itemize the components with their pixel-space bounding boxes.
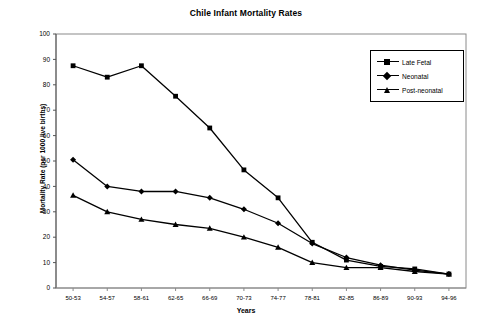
legend-item-label: Neonatal <box>399 73 428 80</box>
data-point-marker <box>70 192 76 197</box>
x-axis-tick-label: 94-96 <box>441 295 457 301</box>
y-axis-tick-label: 100 <box>39 30 50 37</box>
x-axis-tick-label: 70-73 <box>236 295 252 301</box>
x-axis-title: Years <box>0 307 492 314</box>
data-point-marker <box>173 94 178 99</box>
triangle-marker-icon <box>377 85 399 95</box>
diamond-marker-icon <box>377 71 399 81</box>
chart-legend: Late Fetal Neonatal Post-neonatal <box>370 50 464 102</box>
data-point-marker <box>242 167 247 172</box>
x-axis-tick-label: 66-69 <box>202 295 218 301</box>
x-axis-tick-label: 78-81 <box>305 295 321 301</box>
x-axis-tick-label: 86-89 <box>373 295 389 301</box>
data-series-post-neonatal <box>70 192 452 276</box>
x-axis-tick-label: 58-61 <box>134 295 150 301</box>
x-axis-tick-label: 54-57 <box>100 295 116 301</box>
data-point-marker <box>71 63 76 68</box>
data-point-marker <box>207 195 213 201</box>
x-axis-tick-label: 90-93 <box>407 295 423 301</box>
x-axis-tick-label: 62-65 <box>168 295 184 301</box>
x-axis-tick-label: 50-53 <box>65 295 81 301</box>
legend-item-label: Late Fetal <box>399 59 431 66</box>
y-axis-tick-label: 90 <box>43 56 51 63</box>
data-point-marker <box>276 195 281 200</box>
y-axis-title: Mortality Rate (per 1000 live births) <box>39 69 46 249</box>
plot-area: 0102030405060708090100 50-5354-5758-6162… <box>0 0 492 326</box>
data-point-marker <box>138 188 144 194</box>
legend-item-late-fetal: Late Fetal <box>371 55 463 69</box>
data-point-marker <box>105 75 110 80</box>
legend-item-label: Post-neonatal <box>399 87 443 94</box>
data-point-marker <box>139 63 144 68</box>
y-axis-tick-label: 10 <box>43 259 51 266</box>
data-point-marker <box>275 220 281 226</box>
y-axis-tick-label: 0 <box>46 284 50 291</box>
x-axis-tick-label: 82-85 <box>339 295 355 301</box>
chart-container: Chile Infant Mortality Rates 01020304050… <box>0 0 492 326</box>
x-axis-tick-label: 74-77 <box>270 295 286 301</box>
legend-item-post-neonatal: Post-neonatal <box>371 83 463 97</box>
data-point-marker <box>241 206 247 212</box>
square-marker-icon <box>377 57 399 67</box>
data-point-marker <box>207 126 212 131</box>
x-axis-ticks: 50-5354-5758-6162-6566-6970-7374-7778-81… <box>65 288 457 301</box>
data-point-marker <box>173 188 179 194</box>
legend-item-neonatal: Neonatal <box>371 69 463 83</box>
